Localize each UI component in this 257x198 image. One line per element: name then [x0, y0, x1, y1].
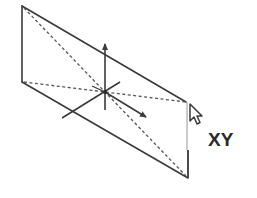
axes [62, 44, 146, 118]
mouse-pointer-arrow-icon [190, 104, 202, 124]
xy-plane-diagram [0, 0, 257, 198]
axis-stub [92, 86, 105, 92]
origin-point [103, 90, 107, 94]
plane-label: XY [208, 129, 233, 151]
plane-edge-top [22, 6, 186, 102]
y-axis-line [62, 82, 120, 118]
